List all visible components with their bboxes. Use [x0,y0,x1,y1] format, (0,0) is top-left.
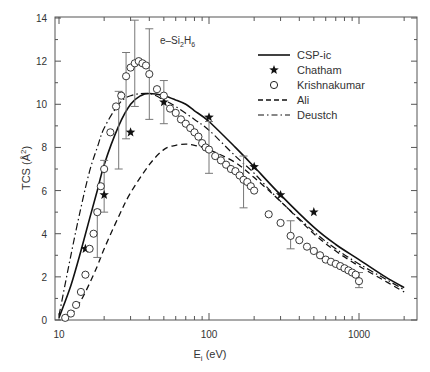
krishnakumar-circle-marker [160,92,167,99]
legend-circle-icon [270,81,277,88]
y-tick-label: 2 [41,272,47,283]
x-tick-label: 10 [53,329,65,340]
series-markers [62,58,363,322]
legend: CSP-icChathamKrishnakumarAliDeustch [258,49,365,121]
krishnakumar-circle-marker [195,133,202,140]
krishnakumar-circle-marker [277,219,284,226]
krishnakumar-circle-marker [118,92,125,99]
y-tick-label: 8 [41,142,47,153]
krishnakumar-circle-marker [265,211,272,218]
series-csp-ic-line [59,94,404,318]
legend-label: Krishnakumar [297,79,365,91]
krishnakumar-circle-marker [94,209,101,216]
y-tick-label: 10 [36,99,48,110]
chatham-star-marker [126,127,136,136]
krishnakumar-circle-marker [205,146,212,153]
x-tick-label: 1000 [348,329,371,340]
y-tick-label: 14 [36,13,48,24]
krishnakumar-circle-marker [287,232,294,239]
krishnakumar-circle-marker [303,243,310,250]
krishnakumar-circle-marker [296,237,303,244]
krishnakumar-circle-marker [101,165,108,172]
legend-label: Deustch [297,109,337,121]
krishnakumar-circle-marker [146,70,153,77]
krishnakumar-circle-marker [77,288,84,295]
y-axis-label: TCS (Å2) [19,146,32,190]
x-axis-label: Ei (eV) [194,348,227,363]
krishnakumar-circle-marker [82,271,89,278]
legend-item-chatham: Chatham [269,64,341,76]
krishnakumar-circle-marker [310,247,317,254]
legend-label: Chatham [297,64,342,76]
y-tick-label: 12 [36,56,48,67]
tick-labels: 02468101214101001000 [36,13,371,340]
legend-star-icon [269,65,279,74]
krishnakumar-circle-marker [355,278,362,285]
krishnakumar-circle-marker [97,183,104,190]
krishnakumar-circle-marker [90,230,97,237]
series-lines [59,93,404,318]
tcs-chart: 02468101214101001000 e–Si2H6 Ei (eV) TCS… [0,0,430,372]
krishnakumar-circle-marker [67,310,74,317]
series-deustch-line [59,93,404,315]
chatham-star-marker [309,207,319,216]
y-tick-label: 6 [41,186,47,197]
legend-label: Ali [297,94,309,106]
legend-item-deustch: Deustch [258,109,337,121]
chart-annotation: e–Si2H6 [160,35,195,48]
krishnakumar-circle-marker [107,129,114,136]
krishnakumar-circle-marker [112,103,119,110]
krishnakumar-circle-marker [72,301,79,308]
krishnakumar-circle-marker [86,245,93,252]
y-tick-label: 4 [41,229,47,240]
legend-item-krishnakumar: Krishnakumar [270,79,365,91]
legend-label: CSP-ic [297,49,332,61]
legend-item-ali: Ali [258,94,309,106]
x-tick-label: 100 [201,329,218,340]
krishnakumar-circle-marker [172,109,179,116]
krishnakumar-circle-marker [153,86,160,93]
chatham-star-marker [204,112,214,121]
krishnakumar-circle-marker [251,187,258,194]
krishnakumar-circle-marker [122,73,129,80]
krishnakumar-circle-marker [142,62,149,69]
legend-item-csp-ic: CSP-ic [258,49,332,61]
y-tick-label: 0 [41,315,47,326]
